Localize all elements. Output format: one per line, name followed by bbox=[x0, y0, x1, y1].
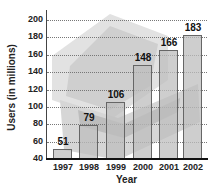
bar-value-label: 183 bbox=[180, 22, 206, 33]
y-tick-label: 40 bbox=[21, 153, 43, 163]
y-axis bbox=[46, 10, 47, 160]
bar-value-label: 106 bbox=[103, 89, 129, 100]
y-tick-label: 60 bbox=[21, 136, 43, 146]
y-tick-label: 140 bbox=[21, 66, 43, 76]
x-tick-label: 2002 bbox=[178, 162, 208, 172]
x-tick-label: 1999 bbox=[101, 162, 131, 172]
y-tick-label: 80 bbox=[21, 118, 43, 128]
x-axis-label: Year bbox=[116, 174, 137, 185]
y-axis-label: Users (in millions) bbox=[6, 33, 17, 143]
bar-chart: Users (in millions) Year 406080100120140… bbox=[0, 0, 210, 189]
y-tick-label: 100 bbox=[21, 101, 43, 111]
y-tick-label: 200 bbox=[21, 14, 43, 24]
bar-1999 bbox=[106, 102, 125, 159]
bar-2001 bbox=[159, 50, 178, 159]
bar-value-label: 148 bbox=[130, 52, 156, 63]
bar-2002 bbox=[183, 35, 202, 159]
bar-2000 bbox=[133, 65, 152, 159]
y-tick-label: 120 bbox=[21, 84, 43, 94]
x-tick-label: 1998 bbox=[74, 162, 104, 172]
y-tick-label: 180 bbox=[21, 31, 43, 41]
bar-value-label: 51 bbox=[50, 136, 76, 147]
bar-value-label: 79 bbox=[76, 112, 102, 123]
bar-value-label: 166 bbox=[156, 37, 182, 48]
bar-1998 bbox=[79, 125, 98, 159]
x-axis bbox=[46, 158, 208, 160]
y-tick-label: 160 bbox=[21, 49, 43, 59]
